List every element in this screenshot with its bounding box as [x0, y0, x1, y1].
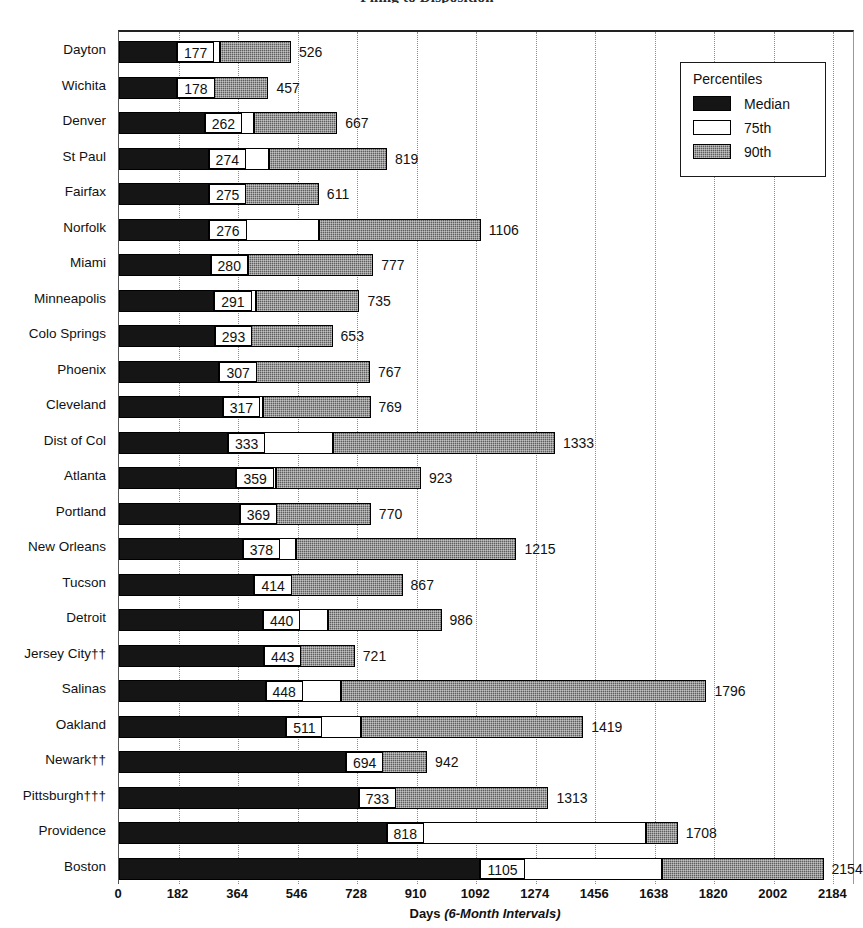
y-axis-label: Dayton	[63, 39, 106, 61]
legend-item[interactable]: Median	[693, 94, 815, 113]
bar-segment-median	[119, 467, 236, 489]
bar-row[interactable]: 443721	[119, 645, 853, 667]
y-axis-label: Atlanta	[64, 465, 106, 487]
y-axis-label: Tucson	[62, 572, 106, 594]
bar-row[interactable]: 177526	[119, 41, 853, 63]
median-value-label: 369	[240, 504, 277, 524]
bar-row[interactable]: 5111419	[119, 716, 853, 738]
median-value-label: 378	[243, 539, 280, 559]
bar-segment-90th	[263, 396, 371, 418]
bar-segment-median	[119, 325, 215, 347]
bar-segment-median	[119, 148, 209, 170]
x-axis-tick-label: 2002	[758, 886, 787, 901]
x-axis-tick-label: 728	[345, 886, 367, 901]
median-value-label: 317	[223, 397, 260, 417]
bar-row[interactable]: 440986	[119, 609, 853, 631]
bar-row[interactable]: 8181708	[119, 822, 853, 844]
y-axis-label: Minneapolis	[34, 288, 106, 310]
bar-segment-90th	[254, 112, 337, 134]
bar-row[interactable]: 359923	[119, 467, 853, 489]
p90-value-label: 986	[442, 609, 473, 631]
bar-row[interactable]: 4481796	[119, 680, 853, 702]
bar-segment-90th	[220, 41, 291, 63]
bar-segment-90th	[393, 787, 548, 809]
bar-row[interactable]: 293653	[119, 325, 853, 347]
median-value-label: 177	[177, 42, 214, 62]
bar-row[interactable]: 291735	[119, 290, 853, 312]
bar-segment-median	[119, 361, 219, 383]
y-axis-category-labels: DaytonWichitaDenverSt PaulFairfaxNorfolk…	[0, 30, 112, 882]
median-value-label: 359	[236, 468, 273, 488]
bar-row[interactable]: 280777	[119, 254, 853, 276]
median-value-label: 511	[286, 717, 322, 737]
median-value-label: 1105	[480, 859, 524, 879]
median-value-label: 178	[177, 78, 214, 98]
p90-value-label: 769	[371, 396, 402, 418]
bar-segment-90th	[328, 609, 441, 631]
bar-row[interactable]: 2761106	[119, 219, 853, 241]
p90-value-label: 770	[371, 503, 402, 525]
bar-segment-median	[119, 112, 205, 134]
chart-title: Filing to Disposition	[0, 0, 854, 3]
median-value-label: 280	[211, 255, 248, 275]
y-axis-label: Oakland	[56, 714, 106, 736]
bar-row[interactable]: 369770	[119, 503, 853, 525]
x-axis-tick-label: 0	[114, 886, 121, 901]
bar-segment-90th	[296, 538, 517, 560]
x-axis-tick-label: 1456	[580, 886, 609, 901]
y-axis-label: Wichita	[62, 75, 106, 97]
y-axis-label: Denver	[62, 110, 106, 132]
bar-segment-median	[119, 254, 211, 276]
legend-swatch-icon	[693, 96, 731, 111]
median-value-label: 275	[209, 184, 246, 204]
p90-value-label: 667	[337, 112, 368, 134]
p90-value-label: 819	[387, 148, 418, 170]
bar-segment-90th	[276, 467, 421, 489]
legend-item-label: 75th	[744, 120, 771, 136]
median-value-label: 262	[205, 113, 242, 133]
y-axis-label: Fairfax	[65, 181, 106, 203]
bar-segment-median	[119, 77, 177, 99]
x-axis-tick-label: 364	[226, 886, 248, 901]
y-axis-label: Boston	[64, 856, 106, 878]
bar-row[interactable]: 307767	[119, 361, 853, 383]
x-axis-tick-label: 546	[286, 886, 308, 901]
p90-value-label: 735	[359, 290, 390, 312]
bar-segment-90th	[297, 645, 355, 667]
median-value-label: 307	[219, 362, 256, 382]
bar-segment-median	[119, 822, 387, 844]
y-axis-label: Providence	[38, 820, 106, 842]
x-axis-title-italic: (6-Month Intervals)	[444, 906, 560, 921]
median-value-label: 448	[266, 681, 303, 701]
median-value-label: 694	[346, 752, 383, 772]
bar-segment-90th	[646, 822, 678, 844]
bar-row[interactable]: 275611	[119, 183, 853, 205]
y-axis-label: Miami	[70, 252, 106, 274]
y-axis-label: Cleveland	[46, 394, 106, 416]
bar-segment-90th	[256, 290, 359, 312]
y-axis-label: Colo Springs	[29, 323, 106, 345]
bar-segment-90th	[341, 680, 706, 702]
bar-row[interactable]: 11052154	[119, 858, 853, 880]
legend-item[interactable]: 90th	[693, 142, 815, 161]
bar-segment-median	[119, 716, 286, 738]
bar-row[interactable]: 317769	[119, 396, 853, 418]
bar-row[interactable]: 3781215	[119, 538, 853, 560]
bar-segment-90th	[319, 219, 481, 241]
bar-segment-90th	[269, 148, 386, 170]
median-value-label: 443	[264, 646, 301, 666]
bar-segment-90th	[377, 751, 427, 773]
bar-row[interactable]: 414867	[119, 574, 853, 596]
bar-row[interactable]: 3331333	[119, 432, 853, 454]
bar-segment-90th	[333, 432, 555, 454]
bar-row[interactable]: 7331313	[119, 787, 853, 809]
median-value-label: 274	[209, 149, 246, 169]
p90-value-label: 1333	[555, 432, 594, 454]
p90-value-label: 721	[355, 645, 386, 667]
p90-value-label: 1313	[548, 787, 587, 809]
y-axis-label: Pittsburgh†††	[23, 785, 106, 807]
legend-item[interactable]: 75th	[693, 118, 815, 137]
median-value-label: 733	[359, 788, 396, 808]
bar-row[interactable]: 694942	[119, 751, 853, 773]
